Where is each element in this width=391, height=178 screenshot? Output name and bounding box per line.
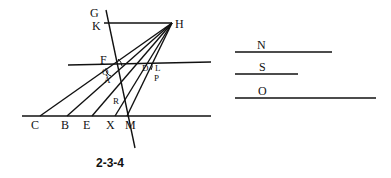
label-a: A — [104, 75, 111, 85]
segment-hm — [127, 23, 172, 116]
figure-caption: 2-3-4 — [96, 156, 124, 170]
label-b: B — [61, 118, 69, 132]
label-r: R — [113, 96, 119, 106]
label-l: L — [155, 63, 161, 73]
label-g: G — [90, 6, 99, 20]
label-o: O — [258, 84, 267, 98]
label-k: K — [92, 19, 101, 33]
label-f: F — [100, 53, 107, 67]
label-n: N — [257, 38, 266, 52]
label-d: D — [142, 63, 149, 73]
label-p: P — [154, 73, 159, 83]
label-h: H — [175, 17, 184, 31]
segment-upper-line — [68, 62, 211, 65]
geometry-diagram: G K H F Q A D L P R C B E X M 2-3-4 N S … — [0, 0, 391, 178]
label-e: E — [83, 118, 90, 132]
label-s: S — [259, 60, 266, 74]
label-m: M — [125, 118, 136, 132]
label-c: C — [31, 118, 39, 132]
label-x: X — [106, 118, 115, 132]
